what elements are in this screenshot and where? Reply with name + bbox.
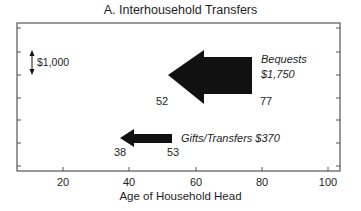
x-tick-label: 80 <box>256 176 268 188</box>
bequests-to-age-label: 52 <box>156 95 168 107</box>
gifts-arrow <box>120 129 172 147</box>
x-tick-label: 20 <box>57 176 69 188</box>
bequests-name-label: Bequests <box>261 53 307 65</box>
x-tick-labels: 20 40 60 80 100 <box>57 176 337 188</box>
x-tick-label: 60 <box>190 176 202 188</box>
x-ticks <box>63 167 328 171</box>
gifts-to-age-label: 38 <box>114 146 126 158</box>
bequests-amount-label: $1,750 <box>260 68 296 80</box>
x-tick-label: 100 <box>319 176 337 188</box>
x-axis-label: Age of Household Head <box>0 190 361 202</box>
gifts-label: Gifts/Transfers $370 <box>181 132 281 144</box>
chart-plot: 20 40 60 80 100 $1,000 Bequests $1,750 5… <box>0 0 361 211</box>
gifts-from-age-label: 53 <box>167 146 179 158</box>
bequests-from-age-label: 77 <box>260 95 272 107</box>
bequests-arrow <box>168 50 252 104</box>
scale-double-arrow-icon <box>30 50 35 75</box>
scale-label: $1,000 <box>37 56 69 68</box>
x-tick-label: 40 <box>123 176 135 188</box>
